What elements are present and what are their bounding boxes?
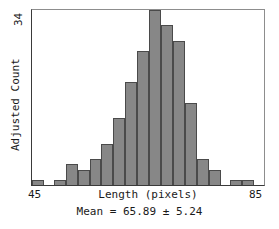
x-axis-label: Length (pixels) — [31, 188, 265, 201]
histogram-bar — [137, 51, 149, 185]
histogram-bar — [66, 164, 78, 185]
histogram-bar — [149, 10, 161, 185]
y-axis-max-tick-label: 34 — [12, 6, 26, 32]
y-axis-label: Adjusted Count — [9, 40, 23, 170]
histogram-bars — [32, 10, 264, 185]
histogram-bar — [54, 180, 66, 185]
histogram-bar — [113, 118, 125, 185]
histogram-bar — [209, 170, 221, 185]
histogram-bar — [230, 180, 242, 185]
histogram-bar — [90, 159, 102, 185]
histogram-bar — [242, 180, 254, 185]
mean-caption: Mean = 65.89 ± 5.24 — [0, 205, 279, 218]
histogram-bar — [185, 103, 197, 185]
histogram-bar — [197, 159, 209, 185]
histogram-bar — [78, 170, 90, 185]
histogram-bar — [125, 82, 137, 185]
histogram-bar — [101, 144, 113, 185]
histogram-bar — [173, 41, 185, 185]
histogram-figure: 34 Adjusted Count 45 85 Length (pixels) … — [0, 0, 279, 229]
histogram-bar — [161, 25, 173, 185]
plot-area — [31, 9, 265, 186]
histogram-bar — [32, 180, 44, 185]
